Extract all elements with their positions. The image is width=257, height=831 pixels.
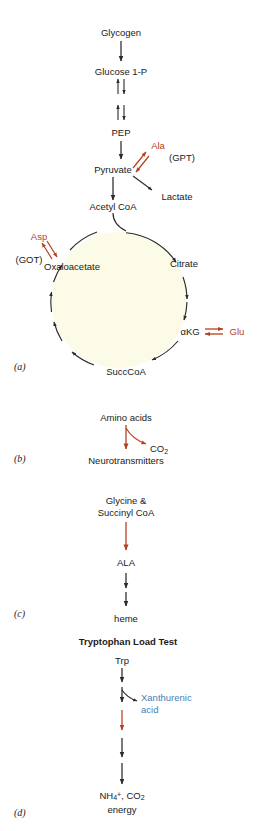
- cofactor-asp: Asp: [31, 231, 47, 242]
- arrow-asp-to-oxaloacetate: [47, 241, 57, 257]
- node-oxaloacetate: Oxaloacetate: [44, 261, 100, 272]
- node-products-nh4-co2: NH4+, CO2: [99, 789, 144, 804]
- tca-cycle: [51, 232, 187, 368]
- panel-b-arrows: [126, 425, 146, 449]
- node-acetyl-coa: Acetyl CoA: [90, 201, 137, 212]
- node-amino-acids: Amino acids: [100, 412, 152, 423]
- cofactor-glu: Glu: [230, 326, 245, 337]
- node-xanthurenic-acid-line1: Xanthurenic: [141, 692, 192, 703]
- enzyme-got: (GOT): [16, 254, 43, 265]
- arrow-branch-to-co2: [126, 428, 146, 444]
- node-succcoa: SuccCoA: [106, 366, 146, 377]
- akg-glu-exchange: [205, 329, 223, 334]
- arrow-pyruvate-to-ala: [133, 152, 146, 168]
- node-glucose-1-p: Glucose 1-P: [95, 66, 147, 77]
- connector-acetylcoa-to-cycle: [113, 213, 126, 231]
- arrow-pyruvate-to-lactate: [133, 176, 152, 190]
- node-xanthurenic-acid-line2: acid: [141, 704, 158, 715]
- panel-label-d: (d): [14, 807, 26, 818]
- node-citrate: Citrate: [170, 258, 198, 269]
- metabolic-pathways-figure: Glycogen Glucose 1-P PEP Pyruvate Lactat…: [0, 0, 257, 831]
- panel-label-c: (c): [14, 608, 25, 619]
- node-neurotransmitters: Neurotransmitters: [88, 455, 164, 466]
- arrow-branch-to-xanthurenic: [122, 690, 137, 701]
- node-akg: αKG: [180, 326, 199, 337]
- node-glycogen: Glycogen: [101, 27, 141, 38]
- arrow-oxaloacetate-to-asp: [42, 243, 52, 259]
- node-succinyl-coa: Succinyl CoA: [98, 507, 155, 518]
- arrow-ala-to-pyruvate: [136, 156, 149, 172]
- panel-label-b: (b): [14, 453, 26, 464]
- node-trp: Trp: [115, 655, 129, 666]
- node-ala-heme: ALA: [117, 557, 135, 568]
- panel-label-a: (a): [14, 361, 26, 372]
- node-glycine: Glycine &: [106, 495, 147, 506]
- node-pep: PEP: [111, 127, 130, 138]
- node-heme: heme: [114, 613, 138, 624]
- tca-cycle-fill: [51, 232, 187, 368]
- panel-d-arrows: [122, 668, 137, 784]
- node-products-energy: energy: [107, 804, 136, 815]
- node-lactate: Lactate: [161, 191, 192, 202]
- panel-d-heading: Tryptophan Load Test: [79, 636, 178, 647]
- enzyme-gpt: (GPT): [169, 152, 195, 163]
- node-pyruvate: Pyruvate: [94, 164, 132, 175]
- asp-got-exchange: [42, 241, 57, 259]
- cofactor-ala: Ala: [151, 140, 165, 151]
